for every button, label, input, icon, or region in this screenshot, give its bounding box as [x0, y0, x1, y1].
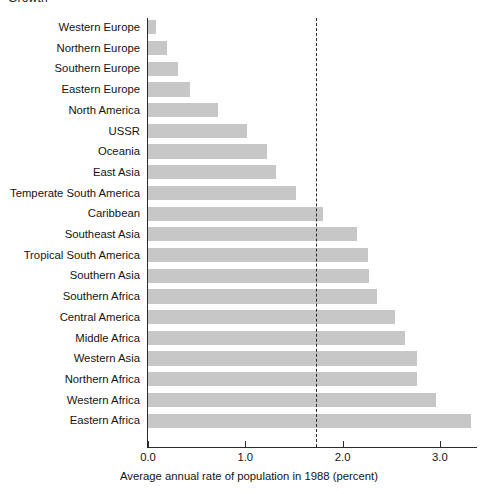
bar-row: Oceania — [0, 141, 498, 162]
category-label: East Asia — [93, 162, 146, 183]
bar-row: Northern Africa — [0, 369, 498, 390]
bar — [148, 248, 368, 262]
bar — [148, 227, 357, 241]
x-tick-label: 2.0 — [335, 451, 351, 463]
bar-row: Southeast Asia — [0, 224, 498, 245]
x-tick-label: 0.0 — [140, 451, 156, 463]
bar-row: Southern Europe — [0, 58, 498, 79]
bar — [148, 372, 417, 386]
bar-row: Western Asia — [0, 348, 498, 369]
category-label: Oceania — [98, 141, 146, 162]
y-axis-line — [147, 18, 148, 447]
bar — [148, 165, 276, 179]
bar — [148, 186, 296, 200]
category-label: Southern Europe — [55, 58, 146, 79]
bar — [148, 269, 369, 283]
category-label: North America — [68, 100, 146, 121]
bar — [148, 144, 267, 158]
bar — [148, 41, 167, 55]
bar — [148, 82, 190, 96]
bar — [148, 310, 395, 324]
bar-row: Tropical South America — [0, 245, 498, 266]
bar-row: Eastern Africa — [0, 410, 498, 431]
bar-row: Southern Africa — [0, 286, 498, 307]
bar — [148, 351, 417, 365]
bar-row: Southern Asia — [0, 265, 498, 286]
category-label: Southeast Asia — [65, 224, 146, 245]
x-axis-line — [147, 447, 477, 448]
x-tick-label: 1.0 — [237, 451, 253, 463]
x-tick-label: 3.0 — [432, 451, 448, 463]
bar-row: Middle Africa — [0, 328, 498, 349]
bar — [148, 124, 247, 138]
bar — [148, 207, 323, 221]
bar-row: Western Africa — [0, 390, 498, 411]
reference-line — [316, 18, 317, 447]
bar-row: Caribbean — [0, 203, 498, 224]
bar-row: North America — [0, 100, 498, 121]
category-label: USSR — [109, 121, 146, 142]
category-label: Southern Africa — [63, 286, 146, 307]
category-label: Western Asia — [74, 348, 146, 369]
bar — [148, 393, 436, 407]
category-label: Caribbean — [88, 203, 146, 224]
bar — [148, 331, 405, 345]
chart-page: Growth Western EuropeNorthern EuropeSout… — [0, 0, 498, 494]
x-axis-label: Average annual rate of population in 198… — [0, 470, 498, 482]
bar-row: USSR — [0, 121, 498, 142]
bar-row: Central America — [0, 307, 498, 328]
x-tick — [148, 441, 149, 448]
bar-chart: Western EuropeNorthern EuropeSouthern Eu… — [0, 0, 498, 494]
bar — [148, 103, 218, 117]
category-label: Middle Africa — [75, 328, 146, 349]
bar-row: Northern Europe — [0, 38, 498, 59]
x-tick — [245, 441, 246, 448]
x-tick — [440, 441, 441, 448]
category-label: Western Africa — [67, 390, 146, 411]
category-label: Western Europe — [59, 17, 146, 38]
category-label: Southern Asia — [70, 265, 146, 286]
category-label: Eastern Europe — [62, 79, 147, 100]
bar — [148, 289, 377, 303]
bar — [148, 20, 156, 34]
x-tick — [343, 441, 344, 448]
bar-row: East Asia — [0, 162, 498, 183]
bar — [148, 62, 178, 76]
category-label: Northern Europe — [56, 38, 146, 59]
category-label: Northern Africa — [65, 369, 146, 390]
category-label: Eastern Africa — [70, 410, 146, 431]
bar-row: Western Europe — [0, 17, 498, 38]
bar-row: Eastern Europe — [0, 79, 498, 100]
category-label: Tropical South America — [24, 245, 146, 266]
bar-row: Temperate South America — [0, 183, 498, 204]
bar — [148, 414, 471, 428]
category-label: Central America — [60, 307, 146, 328]
category-label: Temperate South America — [10, 183, 146, 204]
